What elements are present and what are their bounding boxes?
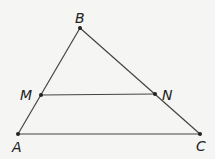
- label-N: N: [162, 87, 173, 103]
- segment-BC: [80, 28, 200, 134]
- label-M: M: [20, 87, 32, 103]
- segment-AB: [18, 28, 80, 134]
- label-B: B: [75, 10, 85, 26]
- point-A: [16, 132, 20, 136]
- point-B: [78, 26, 82, 30]
- triangle-diagram: BMNAC: [0, 0, 215, 159]
- label-C: C: [196, 138, 206, 154]
- label-A: A: [11, 139, 22, 155]
- point-C: [198, 132, 202, 136]
- point-M: [39, 93, 43, 97]
- segment-MN: [41, 94, 155, 95]
- point-N: [153, 92, 157, 96]
- diagram-canvas: BMNAC: [0, 0, 215, 159]
